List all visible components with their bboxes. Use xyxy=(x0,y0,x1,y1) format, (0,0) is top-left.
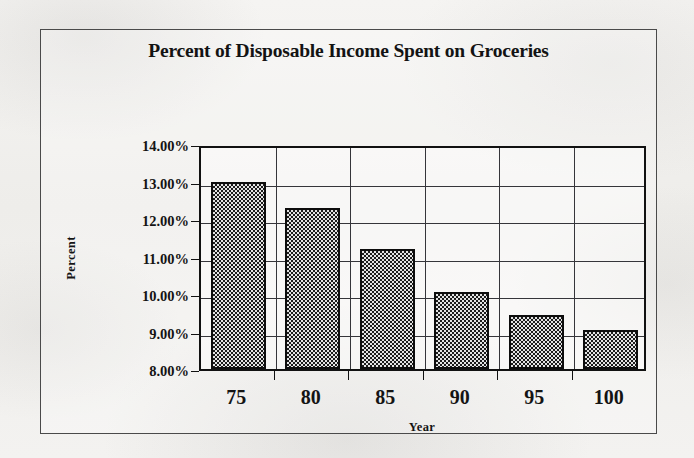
y-axis-tick-mark xyxy=(191,146,199,147)
y-axis-tick-mark xyxy=(191,221,199,222)
y-axis-tick-mark xyxy=(191,296,199,297)
bar xyxy=(434,292,489,369)
y-axis-tick-label: 14.00% xyxy=(103,138,189,155)
y-axis-tick-label: 11.00% xyxy=(103,250,189,267)
y-axis-tick-label: 10.00% xyxy=(103,288,189,305)
y-axis-tick-mark xyxy=(191,334,199,335)
y-axis-tick-label: 8.00% xyxy=(103,363,189,380)
y-axis-title: Percent xyxy=(64,236,79,280)
y-axis-tick-label: 12.00% xyxy=(103,213,189,230)
x-axis-tick-label: 85 xyxy=(375,386,395,409)
bar xyxy=(583,330,638,369)
y-axis-tick-mark xyxy=(191,259,199,260)
x-axis-tick-mark xyxy=(274,371,275,380)
x-axis-tick-label: 80 xyxy=(301,386,321,409)
y-axis-tick-mark xyxy=(191,371,199,372)
x-axis-tick-mark xyxy=(423,371,424,380)
x-axis-tick-label: 100 xyxy=(594,386,624,409)
plot-area xyxy=(199,146,646,371)
x-axis-tick-mark xyxy=(572,371,573,380)
x-axis-title: Year xyxy=(409,420,436,435)
y-axis-tick-labels: 14.00%13.00%12.00%11.00%10.00%9.00%8.00% xyxy=(99,30,189,433)
y-axis-tick-label: 13.00% xyxy=(103,175,189,192)
x-axis-tick-label: 95 xyxy=(524,386,544,409)
bar xyxy=(360,249,415,369)
chart-frame: Percent of Disposable Income Spent on Gr… xyxy=(40,29,657,434)
bar xyxy=(285,208,340,369)
x-axis-tick-label: 75 xyxy=(226,386,246,409)
bar-series xyxy=(201,148,644,369)
x-axis-tick-mark xyxy=(497,371,498,380)
x-axis-tick-mark xyxy=(348,371,349,380)
y-axis-tick-label: 9.00% xyxy=(103,325,189,342)
bar xyxy=(211,182,266,370)
bar xyxy=(509,315,564,369)
x-axis-tick-label: 90 xyxy=(450,386,470,409)
y-axis-tick-mark xyxy=(191,184,199,185)
